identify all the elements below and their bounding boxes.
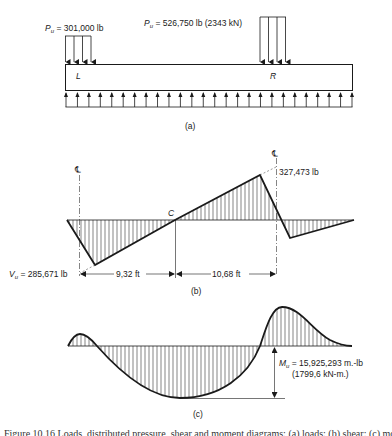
shear-extension-right [260, 167, 276, 175]
mu-si-label: (1799,6 kN-m.) [292, 369, 349, 379]
panel-c-label: (c) [193, 409, 203, 419]
vu-label: Vu = 285,671 lb [9, 269, 68, 280]
moment-negative-area [97, 346, 260, 398]
shear-negative-area-left [67, 220, 175, 265]
left-load-label: Pu = 301,000 lb [45, 23, 104, 34]
panel-c-moment: Mu = 15,925,293 m.-lb (1799,6 kN-m.) (c) [68, 307, 363, 419]
dim-right-label: 10,68 ft [212, 269, 241, 279]
right-load-arrows [260, 17, 286, 62]
figure-caption: Figure 10.16 Loads, distributed pressure… [4, 428, 392, 436]
footing-diagram: Pu = 301,000 lb Pu = 526,750 lb (2343 kN… [0, 0, 392, 436]
centerline-left-symbol: ℄ [74, 165, 81, 175]
panel-b-shear: ℄ ℄ C 327,473 lb Vu = 285,671 lb 9,32 ft… [9, 149, 354, 296]
dim-left-label: 9,32 ft [116, 269, 140, 279]
centerline-right-symbol: ℄ [271, 149, 278, 159]
panel-a-loads: Pu = 301,000 lb Pu = 526,750 lb (2343 kN… [45, 17, 354, 131]
left-column-label: L [76, 71, 81, 81]
soil-pressure-arrows [64, 92, 354, 107]
panel-a-label: (a) [185, 121, 196, 131]
shear-positive-area [175, 175, 281, 220]
right-column-label: R [270, 71, 276, 81]
left-load-arrows [65, 36, 91, 62]
point-c-label: C [168, 208, 175, 218]
footing-beam [66, 65, 353, 91]
right-load-label: Pu = 526,750 lb (2343 kN) [144, 18, 242, 29]
panel-b-label: (b) [191, 286, 202, 296]
mu-label: Mu = 15,925,293 m.-lb [279, 358, 363, 369]
max-shear-label: 327,473 lb [279, 167, 319, 177]
shear-extension-left [80, 265, 95, 273]
